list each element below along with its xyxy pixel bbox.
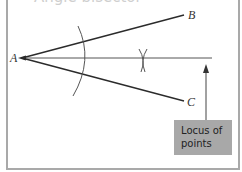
ray-ac: [22, 58, 184, 101]
callout-line-1: Locus of: [181, 124, 232, 137]
intersect-arc-1: [139, 49, 143, 72]
label-a: A: [10, 51, 17, 66]
locus-callout-box: Locus of points: [174, 120, 232, 155]
construction-arc: [73, 26, 85, 96]
callout-line-2: points: [181, 137, 232, 150]
label-b: B: [188, 8, 195, 23]
intersect-arc-2: [143, 49, 147, 72]
label-c: C: [187, 95, 195, 110]
vertex-marker-icon: [18, 56, 26, 61]
arrow-up-icon: [203, 64, 209, 73]
ray-ab: [22, 15, 184, 58]
